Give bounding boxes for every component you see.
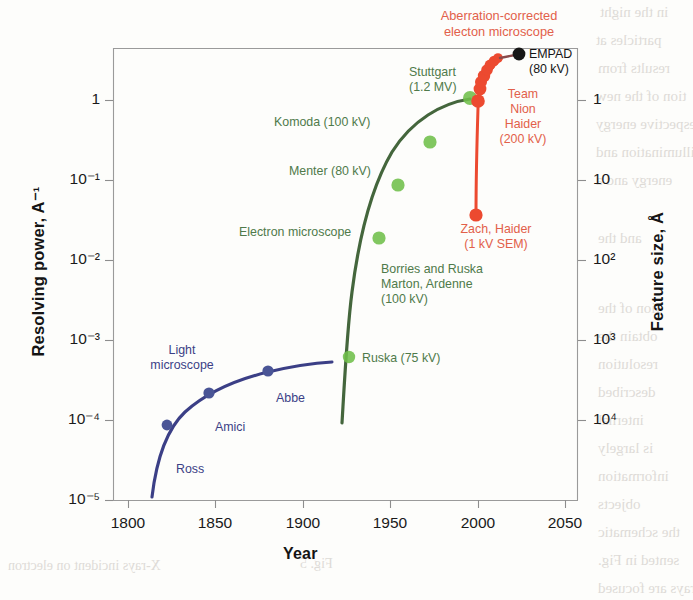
- chart-canvas: [0, 0, 693, 600]
- annotation-menter: Menter (80 kV): [289, 164, 371, 179]
- y-tick-right-0: 1: [593, 90, 645, 108]
- data-point-amici: [203, 387, 214, 398]
- x-axis-title: Year: [283, 545, 318, 563]
- annotation-stuttgart-line2: (1.2 MV): [409, 80, 457, 95]
- annotation-zach-haider: Zach, Haider (1 kV SEM): [437, 222, 555, 252]
- y-axis-right-ticks: [578, 101, 586, 421]
- annotation-nion: Nion: [495, 102, 551, 117]
- x-tick-4: 2000: [446, 514, 510, 532]
- series-empad: [500, 48, 525, 61]
- y-tick-left-0: 1: [48, 90, 100, 108]
- annotation-electron-microscope: Electron microscope: [239, 225, 351, 240]
- annotation-borries-line3: (100 kV): [381, 292, 483, 307]
- y-tick-right-3: 10³: [593, 330, 645, 348]
- data-point-komoda: [423, 135, 436, 148]
- data-point-zach-haider: [469, 208, 482, 221]
- annotation-haider-kv: (200 kV): [495, 132, 551, 147]
- series-electron-microscope: [342, 91, 477, 423]
- y-tick-right-1: 10: [593, 170, 645, 188]
- y-axis-right-title: Feature size, Å: [648, 172, 667, 372]
- y-axis-left-ticks: [105, 101, 113, 501]
- y-tick-left-4: 10⁻⁴: [48, 410, 100, 428]
- y-axis-left-title: Resolving power, A⁻¹: [29, 172, 48, 372]
- annotation-haider: Haider: [495, 117, 551, 132]
- annotation-ross: Ross: [176, 462, 204, 477]
- x-tick-5: 2050: [533, 514, 597, 532]
- annotation-zach-line2: (1 kV SEM): [437, 237, 555, 252]
- annotation-empad-line2: (80 kV): [529, 62, 572, 77]
- annotation-light-line2: microscope: [139, 358, 225, 373]
- annotation-borries-ruska: Borries and Ruska Marton, Ardenne (100 k…: [381, 262, 483, 307]
- y-tick-left-1: 10⁻¹: [48, 170, 100, 188]
- annotation-ruska: Ruska (75 kV): [362, 351, 441, 366]
- data-point-ruska: [343, 351, 355, 363]
- annotation-light-line1: Light: [139, 343, 225, 358]
- annotation-borries-line1: Borries and Ruska: [381, 262, 483, 277]
- annotation-amici: Amici: [215, 420, 245, 435]
- y-tick-left-5: 10⁻⁵: [48, 490, 100, 508]
- annotation-aberration-line2: electon microscope: [404, 24, 594, 40]
- annotation-team: Team: [495, 87, 551, 102]
- annotation-light-microscope: Light microscope: [139, 343, 225, 373]
- data-point-empad: [513, 48, 526, 61]
- data-point-ross: [162, 420, 173, 431]
- annotation-komoda: Komoda (100 kV): [274, 115, 370, 130]
- y-tick-right-2: 10²: [593, 250, 645, 268]
- resolving-power-chart: Resolving power, A⁻¹ Feature size, Å Yea…: [0, 0, 693, 600]
- x-tick-3: 1950: [358, 514, 422, 532]
- y-tick-right-4: 10⁴: [593, 410, 645, 428]
- annotation-borries-line2: Marton, Ardenne: [381, 277, 483, 292]
- y-tick-left-2: 10⁻²: [48, 250, 100, 268]
- x-tick-2: 1900: [271, 514, 335, 532]
- data-point-abbe: [262, 365, 273, 376]
- x-tick-1: 1850: [183, 514, 247, 532]
- annotation-empad: EMPAD (80 kV): [529, 47, 572, 77]
- annotation-empad-line1: EMPAD: [529, 47, 572, 62]
- annotation-stuttgart-line1: Stuttgart: [409, 65, 457, 80]
- annotation-aberration-corrected: Aberration-corrected electon microscope: [404, 8, 594, 39]
- annotation-stuttgart: Stuttgart (1.2 MV): [409, 65, 457, 95]
- data-point-menter: [391, 178, 404, 191]
- x-axis-ticks: [129, 500, 566, 508]
- annotation-abbe: Abbe: [276, 391, 305, 406]
- data-point-haider: [471, 94, 485, 108]
- annotation-aberration-line1: Aberration-corrected: [404, 8, 594, 24]
- annotation-zach-line1: Zach, Haider: [437, 222, 555, 237]
- data-point-borries-ruska: [372, 231, 385, 244]
- y-tick-left-3: 10⁻³: [48, 330, 100, 348]
- x-tick-0: 1800: [96, 514, 160, 532]
- annotation-team-nion-haider: Team Nion Haider (200 kV): [495, 87, 551, 148]
